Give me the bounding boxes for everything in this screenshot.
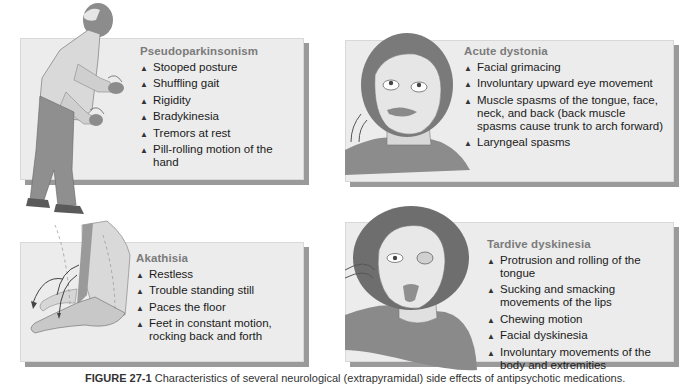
symptom-item: ▲Paces the floor	[136, 301, 301, 314]
panel-text-pseudoparkinsonism: Pseudoparkinsonism ▲Stooped posture ▲Shu…	[140, 45, 300, 172]
bullet-triangle-icon: ▲	[464, 78, 472, 91]
symptom-item: ▲Rigidity	[140, 94, 300, 107]
figure-caption-text: Characteristics of several neurological …	[152, 372, 626, 384]
symptom-item: ▲Bradykinesia	[140, 110, 300, 123]
bullet-triangle-icon: ▲	[140, 144, 148, 157]
tardive-face-illustration	[345, 200, 485, 375]
figure-caption: FIGURE 27-1 Characteristics of several n…	[85, 372, 625, 384]
symptom-list: ▲Facial grimacing ▲Involuntary upward ey…	[464, 61, 664, 149]
dystonia-face-illustration	[345, 30, 475, 180]
bullet-triangle-icon: ▲	[464, 62, 472, 75]
symptom-item: ▲Involuntary upward eye movement	[464, 77, 664, 90]
symptom-item: ▲Stooped posture	[140, 61, 300, 74]
symptom-item: ▲Restless	[136, 268, 301, 281]
bullet-triangle-icon: ▲	[140, 128, 148, 141]
symptom-item: ▲Trouble standing still	[136, 284, 301, 297]
panel-title: Akathisia	[136, 252, 301, 264]
bullet-triangle-icon: ▲	[136, 285, 144, 298]
panel-title: Tardive dyskinesia	[487, 238, 667, 250]
bullet-triangle-icon: ▲	[487, 347, 495, 360]
bullet-triangle-icon: ▲	[140, 62, 148, 75]
bullet-triangle-icon: ▲	[464, 137, 472, 150]
symptom-list: ▲Stooped posture ▲Shuffling gait ▲Rigidi…	[140, 61, 300, 169]
symptom-item: ▲Pill-rolling motion of the hand	[140, 143, 300, 169]
bullet-triangle-icon: ▲	[136, 302, 144, 315]
symptom-item: ▲Chewing motion	[487, 313, 667, 326]
symptom-item: ▲Protrusion and rolling of the tongue	[487, 254, 667, 280]
symptom-item: ▲Facial grimacing	[464, 61, 664, 74]
bullet-triangle-icon: ▲	[487, 314, 495, 327]
symptom-list: ▲Protrusion and rolling of the tongue ▲S…	[487, 254, 667, 372]
panel-text-acute-dystonia: Acute dystonia ▲Facial grimacing ▲Involu…	[464, 45, 664, 153]
symptom-item: ▲Shuffling gait	[140, 77, 300, 90]
panel-title: Pseudoparkinsonism	[140, 45, 300, 57]
foot-illustration	[15, 215, 140, 340]
bullet-triangle-icon: ▲	[136, 318, 144, 331]
elderly-man-illustration	[0, 0, 130, 220]
figure-label: FIGURE 27-1	[85, 372, 152, 384]
symptom-item: ▲Feet in constant motion, rocking back a…	[136, 317, 301, 343]
bullet-triangle-icon: ▲	[487, 330, 495, 343]
bullet-triangle-icon: ▲	[487, 284, 495, 297]
symptom-item: ▲Sucking and smacking movements of the l…	[487, 283, 667, 309]
bullet-triangle-icon: ▲	[464, 95, 472, 108]
bullet-triangle-icon: ▲	[136, 269, 144, 282]
panel-title: Acute dystonia	[464, 45, 664, 57]
symptom-item: ▲Muscle spasms of the tongue, face, neck…	[464, 94, 664, 133]
symptom-list: ▲Restless ▲Trouble standing still ▲Paces…	[136, 268, 301, 343]
panel-text-tardive-dyskinesia: Tardive dyskinesia ▲Protrusion and rolli…	[487, 238, 667, 375]
bullet-triangle-icon: ▲	[140, 78, 148, 91]
symptom-item: ▲Laryngeal spasms	[464, 136, 664, 149]
panel-text-akathisia: Akathisia ▲Restless ▲Trouble standing st…	[136, 252, 301, 347]
bullet-triangle-icon: ▲	[487, 255, 495, 268]
symptom-item: ▲Involuntary movements of the body and e…	[487, 346, 667, 372]
bullet-triangle-icon: ▲	[140, 111, 148, 124]
symptom-item: ▲Facial dyskinesia	[487, 329, 667, 342]
bullet-triangle-icon: ▲	[140, 95, 148, 108]
symptom-item: ▲Tremors at rest	[140, 127, 300, 140]
